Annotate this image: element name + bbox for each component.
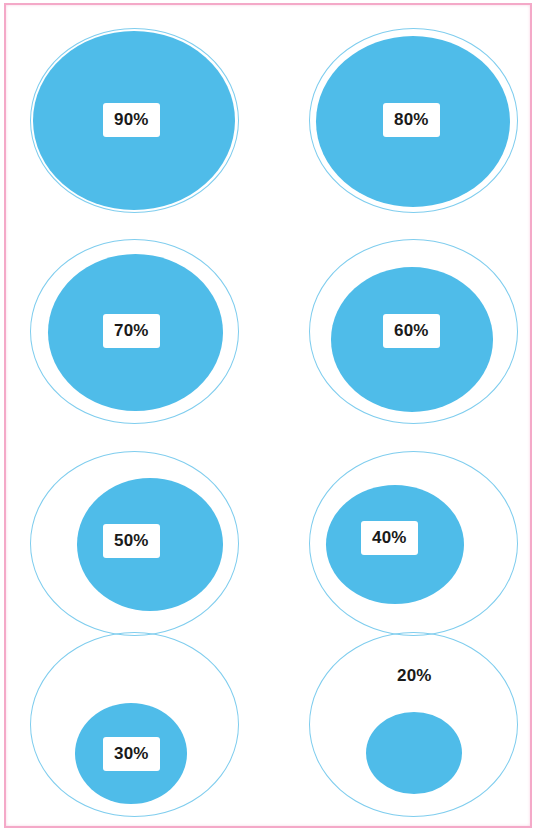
value-label-20: 20%: [386, 659, 443, 693]
value-label-60: 60%: [383, 314, 440, 348]
value-label-80: 80%: [383, 103, 440, 137]
value-label-50: 50%: [103, 524, 160, 558]
value-label-30: 30%: [103, 737, 160, 771]
value-label-70: 70%: [103, 314, 160, 348]
value-label-40: 40%: [361, 521, 418, 555]
bubble-chart: 90%80%70%60%50%40%30%20%: [0, 0, 538, 834]
value-bubble-20[interactable]: [366, 712, 462, 794]
value-label-90: 90%: [103, 103, 160, 137]
